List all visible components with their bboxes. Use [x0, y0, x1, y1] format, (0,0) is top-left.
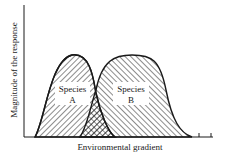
species-response-diagram: Species A Species B Environmental gradie…	[0, 0, 229, 162]
y-axis-label: Magnitude of the response	[9, 22, 19, 118]
species-a-letter: A	[69, 95, 76, 105]
species-a-name: Species	[59, 84, 87, 94]
species-b-letter: B	[128, 95, 134, 105]
x-axis-label: Environmental gradient	[77, 142, 163, 152]
species-b-name: Species	[117, 84, 145, 94]
